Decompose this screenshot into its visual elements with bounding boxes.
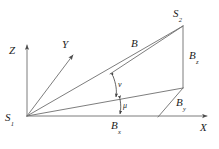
- bz-subscript: z: [196, 58, 199, 65]
- baseline-b-letter: B: [131, 37, 138, 49]
- point-s2-subscript: 2: [179, 16, 182, 23]
- point-s2-label: S2: [173, 8, 182, 22]
- x-axis-label: X: [200, 122, 207, 133]
- bx-label: Bx: [111, 120, 121, 134]
- bx-subscript: x: [118, 128, 121, 135]
- point-s1-letter: S: [5, 111, 11, 123]
- upper-edge-line: [110, 26, 183, 74]
- figure-geometry: [0, 0, 219, 149]
- baseline-vector-line: [27, 26, 183, 116]
- nu-angle-arc: [113, 76, 116, 97]
- z-axis-label: Z: [9, 45, 15, 56]
- bz-label: Bz: [189, 50, 198, 64]
- by-subscript: y: [183, 105, 186, 112]
- point-s2-letter: S: [173, 7, 179, 19]
- y-axis-label: Y: [62, 39, 68, 50]
- by-label: By: [176, 97, 186, 111]
- by-letter: B: [176, 96, 183, 108]
- baseline-b-label: B: [131, 38, 138, 52]
- nu-angle-label: ν: [118, 81, 122, 89]
- point-s1-subscript: 1: [11, 120, 14, 127]
- y-axis-line: [27, 55, 73, 116]
- mu-angle-label: μ: [123, 102, 127, 110]
- bz-letter: B: [189, 49, 196, 61]
- point-s1-label: S1: [5, 112, 14, 126]
- mu-angle-arc: [120, 99, 121, 114]
- bx-letter: B: [111, 119, 118, 131]
- figure-canvas: Z Y X S1 S2 B Bz By Bx ν μ: [0, 0, 219, 149]
